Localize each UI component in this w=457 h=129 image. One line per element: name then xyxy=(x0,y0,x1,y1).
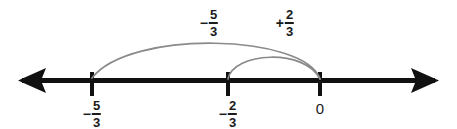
tick-label-neg-5-3: − 5 3 xyxy=(83,99,101,128)
fraction-denominator: 3 xyxy=(285,24,294,38)
arc-plus-two-thirds xyxy=(228,57,320,79)
tick-label-zero: 0 xyxy=(316,101,324,116)
tick-label-neg-2-3: − 2 3 xyxy=(219,99,237,128)
arc-label-plus-sign: + xyxy=(276,16,284,30)
fraction-denominator: 3 xyxy=(92,115,101,129)
tick-label-fraction: 5 3 xyxy=(92,99,101,128)
fraction-numerator: 5 xyxy=(92,99,101,113)
fraction-numerator: 2 xyxy=(228,99,237,113)
fraction-denominator: 3 xyxy=(209,24,218,38)
tick-label-minus-sign: − xyxy=(83,107,91,121)
tick-label-fraction: 2 3 xyxy=(228,99,237,128)
arc-label-minus-five-thirds: − 5 3 xyxy=(200,8,218,38)
arc-label-fraction: 5 3 xyxy=(209,8,218,38)
number-line-diagram: − 5 3 + 2 3 − 5 3 − 2 3 0 xyxy=(0,0,457,128)
fraction-numerator: 2 xyxy=(285,8,294,22)
arc-label-plus-two-thirds: + 2 3 xyxy=(276,8,294,38)
arc-label-fraction: 2 3 xyxy=(285,8,294,38)
arc-minus-five-thirds xyxy=(92,43,320,79)
tick-label-minus-sign: − xyxy=(219,107,227,121)
arc-label-minus-sign: − xyxy=(200,16,208,30)
fraction-numerator: 5 xyxy=(209,8,218,22)
fraction-denominator: 3 xyxy=(228,115,237,129)
tick-label-zero-text: 0 xyxy=(316,101,324,116)
